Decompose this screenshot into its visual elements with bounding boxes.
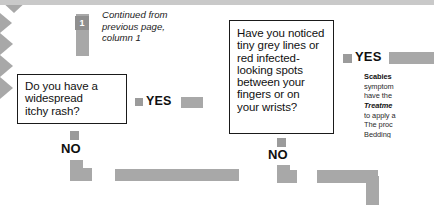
box1-line-1: Do you have a <box>25 80 120 92</box>
entry-number-marker: 1 <box>75 16 89 30</box>
caption-line-2: previous page, <box>102 21 212 33</box>
info-line-1: symptom <box>364 82 434 92</box>
box1-line-3: itchy rash? <box>25 105 120 117</box>
box2-line-2: tiny grey lines or <box>237 39 328 51</box>
caption-line-3: column 1 <box>102 32 212 44</box>
box2-line-3: red infected- <box>237 52 328 64</box>
box2-line-1: Have you noticed <box>237 27 328 39</box>
yes1-square-marker <box>135 98 143 106</box>
bottom-connector-bar-1 <box>115 169 239 181</box>
info-treatment-heading: Treatme <box>364 101 434 111</box>
info-line-4: The proc <box>364 120 434 130</box>
info-line-3: to apply a <box>364 111 434 121</box>
box2-line-4: looking spots <box>237 64 328 76</box>
yes1-arrow-head <box>0 13 12 33</box>
flowchart-canvas: 1 Continued from previous page, column 1… <box>0 0 434 205</box>
yes2-label: YES <box>355 49 382 64</box>
no1-square-marker <box>70 131 79 140</box>
question-box-widespread-rash: Do you have a widespread itchy rash? <box>17 74 127 124</box>
yes2-arrow-bar <box>389 52 434 64</box>
info-heading: Scabies <box>364 72 434 82</box>
info-line-5: Bedding <box>364 130 434 138</box>
yes1-arrow-shaft <box>181 97 203 108</box>
no2-label: NO <box>268 147 288 162</box>
scabies-info-panel: Scabies symptom have the Treatme to appl… <box>364 72 434 138</box>
no1-arrow-elbow <box>70 168 92 181</box>
no2-arrow-elbow <box>277 170 297 183</box>
bottom-connector-bar-1-head <box>0 55 13 77</box>
box2-line-5: between your <box>237 76 328 88</box>
caption-line-1: Continued from <box>102 9 212 21</box>
box2-line-7: your wrists? <box>237 101 328 113</box>
no1-label: NO <box>61 141 81 156</box>
bottom-connector-down-leg <box>366 176 379 205</box>
question-box-grey-lines-spots: Have you noticed tiny grey lines or red … <box>229 20 334 134</box>
yes2-square-marker <box>343 54 352 63</box>
info-line-2: have the <box>364 91 434 101</box>
box2-line-6: fingers or on <box>237 88 328 100</box>
yes1-label: YES <box>146 94 172 108</box>
box1-line-2: widespread <box>25 92 120 104</box>
top-banner-strip <box>0 0 434 5</box>
no2-arrow-head <box>0 77 13 99</box>
continued-caption: Continued from previous page, column 1 <box>102 9 212 44</box>
no2-square-marker <box>277 138 286 147</box>
no1-arrow-head <box>0 33 13 55</box>
